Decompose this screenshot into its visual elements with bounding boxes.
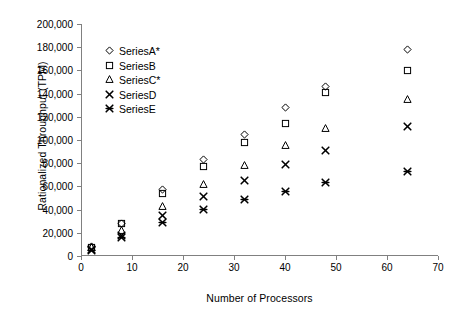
y-tick-label: 160,000 (37, 65, 73, 76)
legend-item: SeriesB (103, 59, 160, 74)
y-tick-label: 100,000 (37, 135, 73, 146)
x-tick-label: 10 (126, 262, 137, 273)
legend-label: SeriesB (119, 60, 156, 72)
y-tick-label: 120,000 (37, 111, 73, 122)
y-tick-label: 0 (67, 251, 73, 262)
y-tick-label: 40,000 (42, 204, 73, 215)
legend-item: SeriesD (103, 88, 160, 103)
legend-item: SeriesA* (103, 44, 160, 59)
x-tick-label: 20 (177, 262, 188, 273)
x-axis-title: Number of Processors (81, 292, 438, 304)
y-tick-label: 180,000 (37, 42, 73, 53)
x-tick-mark (183, 256, 184, 260)
x-tick-mark (81, 256, 82, 260)
x-tick-mark (438, 256, 439, 260)
y-tick-label: 140,000 (37, 88, 73, 99)
legend-label: SeriesA* (119, 45, 160, 57)
legend-item: SeriesE (103, 102, 160, 117)
x-tick-mark (234, 256, 235, 260)
legend-label: SeriesC* (119, 74, 160, 86)
legend-marker-icon (103, 101, 116, 117)
y-tick-label: 60,000 (42, 181, 73, 192)
legend-label: SeriesE (119, 103, 156, 115)
legend: SeriesA*SeriesBSeriesC*SeriesDSeriesE (103, 44, 160, 117)
x-tick-mark (336, 256, 337, 260)
y-tick-label: 80,000 (42, 158, 73, 169)
x-tick-mark (132, 256, 133, 260)
x-tick-label: 70 (432, 262, 443, 273)
x-tick-label: 40 (279, 262, 290, 273)
x-tick-label: 50 (330, 262, 341, 273)
legend-item: SeriesC* (103, 73, 160, 88)
x-tick-label: 0 (78, 262, 84, 273)
legend-label: SeriesD (119, 89, 156, 101)
x-tick-label: 30 (228, 262, 239, 273)
x-tick-label: 60 (381, 262, 392, 273)
y-tick-label: 200,000 (37, 19, 73, 30)
x-tick-mark (387, 256, 388, 260)
scatter-chart: Rationalized Throughput (TPM) 020,00040,… (0, 0, 459, 321)
y-tick-label: 20,000 (42, 227, 73, 238)
x-tick-mark (285, 256, 286, 260)
